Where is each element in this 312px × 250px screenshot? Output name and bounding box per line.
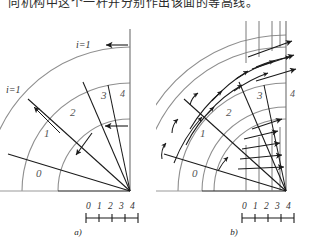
figure-b-scale-tick-4: 4 bbox=[286, 201, 291, 211]
figure-a-scale-tick-3: 3 bbox=[118, 201, 124, 211]
figure-b-scale-ruler bbox=[242, 213, 294, 223]
figure-b-scale-tick-3: 3 bbox=[274, 201, 280, 211]
figure-a-svg: 0 1 2 3 4 i=1 i=1 0 1 2 3 4 bbox=[0, 13, 156, 250]
figure-b-band-label-3: 3 bbox=[256, 89, 263, 101]
figure-a: 0 1 2 3 4 i=1 i=1 0 1 2 3 4 bbox=[0, 13, 156, 250]
figure-b-flow-outer bbox=[174, 57, 290, 163]
figure-b-band-label-0: 0 bbox=[192, 167, 198, 179]
figure-b-svg: 0 1 2 3 4 0 1 2 3 4 bbox=[156, 13, 312, 250]
figure-a-axis-label-4: 4 bbox=[120, 88, 125, 99]
figure-b-caption: b) bbox=[156, 227, 312, 237]
radial-line-0 bbox=[8, 154, 130, 191]
figure-b-dense-arrows bbox=[238, 119, 284, 169]
top-arrow-2 bbox=[252, 55, 294, 69]
figure-a-canvas: 0 1 2 3 4 i=1 i=1 0 1 2 3 4 bbox=[0, 13, 156, 250]
radial-line-1 bbox=[28, 99, 130, 191]
figure-a-band-label-3: 3 bbox=[100, 89, 107, 101]
figure-b-scale-tick-2: 2 bbox=[264, 201, 269, 211]
radial-line-3 bbox=[264, 85, 286, 191]
figure-b-band-label-1: 1 bbox=[200, 127, 206, 139]
figure-b-axis-label-4: 4 bbox=[290, 88, 295, 99]
figure-a-scale-ruler bbox=[86, 213, 138, 223]
flow-arrow-outer-3 bbox=[212, 71, 248, 101]
figure-a-radials bbox=[8, 82, 130, 191]
figure-b-scale-tick-1: 1 bbox=[253, 201, 258, 211]
figure-a-band-label-1: 1 bbox=[44, 127, 50, 139]
hook-arrow-3 bbox=[190, 93, 198, 105]
figure-a-band-label-2: 2 bbox=[70, 106, 76, 118]
figure-a-scale-numbers: 0 1 2 3 4 bbox=[86, 201, 135, 211]
flow-arrow-outer-2 bbox=[190, 91, 222, 129]
dense-arrow-5 bbox=[252, 119, 282, 129]
figure-a-axes bbox=[0, 29, 130, 191]
figure-a-scale-tick-1: 1 bbox=[97, 201, 102, 211]
figure-b: 0 1 2 3 4 0 1 2 3 4 bbox=[156, 13, 312, 250]
figure-a-band-label-0: 0 bbox=[36, 167, 42, 179]
figure-page: 向机构中这个一杆并分别作出该面的等高线。 bbox=[0, 0, 312, 250]
dense-arrow-2 bbox=[242, 143, 280, 149]
top-arrow-1 bbox=[248, 41, 292, 57]
figure-a-caption: a) bbox=[0, 227, 156, 237]
figure-b-scale-numbers: 0 1 2 3 4 bbox=[242, 201, 291, 211]
radial-line-0 bbox=[164, 154, 286, 191]
figure-a-scale-tick-0: 0 bbox=[86, 201, 91, 211]
hook-arrow-2 bbox=[172, 119, 178, 133]
figure-a-scale-tick-4: 4 bbox=[130, 201, 135, 211]
figure-a-arcs bbox=[0, 47, 130, 191]
figure-b-radials bbox=[164, 82, 286, 191]
header-text: 向机构中这个一杆并分别作出该面的等高线。 bbox=[8, 0, 308, 10]
figure-b-canvas: 0 1 2 3 4 0 1 2 3 4 bbox=[156, 13, 312, 250]
figure-a-callout-diagonal-label: i=1 bbox=[6, 84, 21, 95]
arc-radius-4 bbox=[0, 47, 130, 191]
radial-line-3 bbox=[108, 85, 130, 191]
figure-b-scale-tick-0: 0 bbox=[242, 201, 247, 211]
figure-a-scale-tick-2: 2 bbox=[108, 201, 113, 211]
figure-a-callout-vertical-label: i=1 bbox=[76, 39, 91, 50]
figure-b-band-label-2: 2 bbox=[226, 106, 232, 118]
hook-arrow-1 bbox=[162, 143, 166, 159]
figure-b-vertical-grid bbox=[246, 21, 280, 63]
page-header: 向机构中这个一杆并分别作出该面的等高线。 bbox=[0, 0, 312, 13]
arc-radius-4 bbox=[156, 47, 286, 191]
